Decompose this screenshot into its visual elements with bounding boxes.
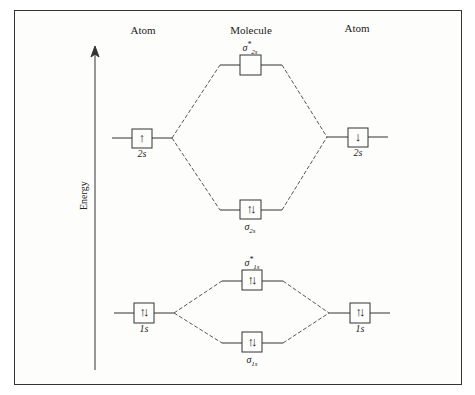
left-2s-electrons: ↑	[139, 130, 146, 146]
mo-diagram-lines	[0, 0, 475, 395]
header-molecule: Molecule	[230, 24, 272, 36]
sigma2s-label: σ2s	[244, 221, 255, 235]
sigma1s-label: σ1s	[246, 354, 257, 368]
sigma1s-electrons: ↑↓	[248, 334, 255, 350]
left-2s-label: 2s	[138, 148, 147, 159]
right-1s-electrons: ↑↓	[356, 304, 363, 320]
sigma2s-electrons: ↑↓	[247, 201, 254, 217]
right-2s-label: 2s	[354, 147, 363, 158]
left-1s-electrons: ↑↓	[140, 304, 147, 320]
right-2s-electrons: ↓	[355, 129, 362, 145]
sigma2s-star-label: σ*2s	[242, 40, 257, 56]
header-atom-right: Atom	[344, 22, 369, 34]
right-1s-label: 1s	[356, 323, 365, 334]
sigma1s-star-label: σ*1s	[244, 255, 259, 271]
header-atom-left: Atom	[130, 24, 155, 36]
left-1s-label: 1s	[140, 323, 149, 334]
sigma1s-star-electrons: ↑↓	[248, 272, 255, 288]
energy-axis	[91, 46, 99, 370]
energy-axis-label: Energy	[78, 181, 89, 210]
